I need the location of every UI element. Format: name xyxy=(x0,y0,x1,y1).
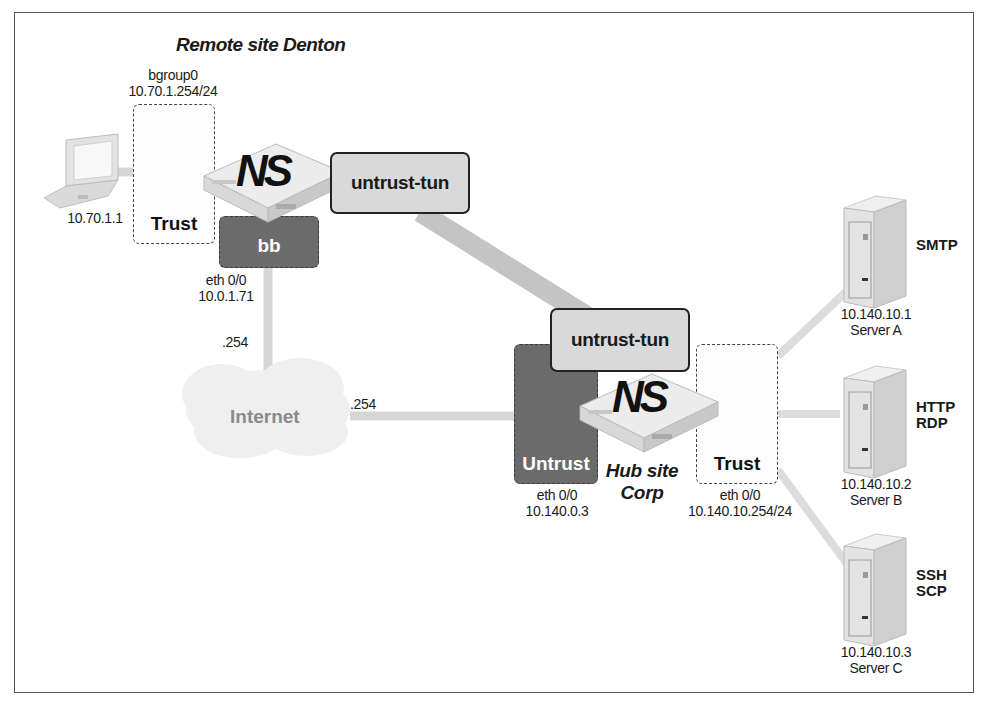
hub-trust-ip-label: 10.140.10.254/24 xyxy=(670,503,810,519)
remote-bb-ip-label: 10.0.1.71 xyxy=(186,288,266,304)
server-c-service-1: SSH xyxy=(916,566,947,583)
remote-trust-interface-label: bgroup0 xyxy=(118,67,228,83)
hub-untrust-ip-label: 10.140.0.3 xyxy=(510,503,604,519)
internet-label: Internet xyxy=(230,406,300,428)
server-a-service-1: SMTP xyxy=(916,236,958,253)
hub-untrust-interface-label: eth 0/0 xyxy=(510,487,604,503)
hub-trust-zone-label: Trust xyxy=(697,453,777,475)
diagram-title: Remote site Denton xyxy=(176,34,345,56)
hub-ns-label: NS xyxy=(612,372,665,422)
server-b-ip: 10.140.10.2 xyxy=(826,476,926,492)
server-b-service-2: RDP xyxy=(916,414,948,431)
hub-trust-interface-label: eth 0/0 xyxy=(670,487,810,503)
server-tower-icon xyxy=(844,366,906,478)
server-c-ip: 10.140.10.3 xyxy=(826,644,926,660)
server-c-name: Server C xyxy=(826,660,926,676)
remote-untrust-tun-label: untrust-tun xyxy=(351,172,449,194)
server-a-ip: 10.140.10.1 xyxy=(826,306,926,322)
server-b-service-1: HTTP xyxy=(916,398,955,415)
remote-gateway-suffix: .254 xyxy=(222,334,262,350)
server-tower-icon xyxy=(844,534,906,646)
server-c-service-2: SCP xyxy=(916,582,947,599)
remote-bb-interface-label: eth 0/0 xyxy=(186,272,266,288)
hub-site-name-line1: Hub site xyxy=(602,460,682,482)
server-b-name: Server B xyxy=(826,492,926,508)
server-tower-icon xyxy=(844,196,906,308)
hub-untrust-tun-label: untrust-tun xyxy=(571,329,669,351)
server-a-name: Server A xyxy=(826,322,926,338)
remote-bb-zone-label: bb xyxy=(220,235,318,257)
internet-gateway-suffix: .254 xyxy=(350,396,390,412)
remote-trust-ip-label: 10.70.1.254/24 xyxy=(118,83,228,99)
hub-untrust-tun-box: untrust-tun xyxy=(550,308,690,372)
remote-untrust-tun-box: untrust-tun xyxy=(330,152,470,214)
remote-ns-label: NS xyxy=(236,146,289,196)
hub-untrust-zone-label: Untrust xyxy=(515,453,597,475)
laptop-icon xyxy=(44,134,118,208)
vpn-tunnel-link xyxy=(420,212,590,318)
